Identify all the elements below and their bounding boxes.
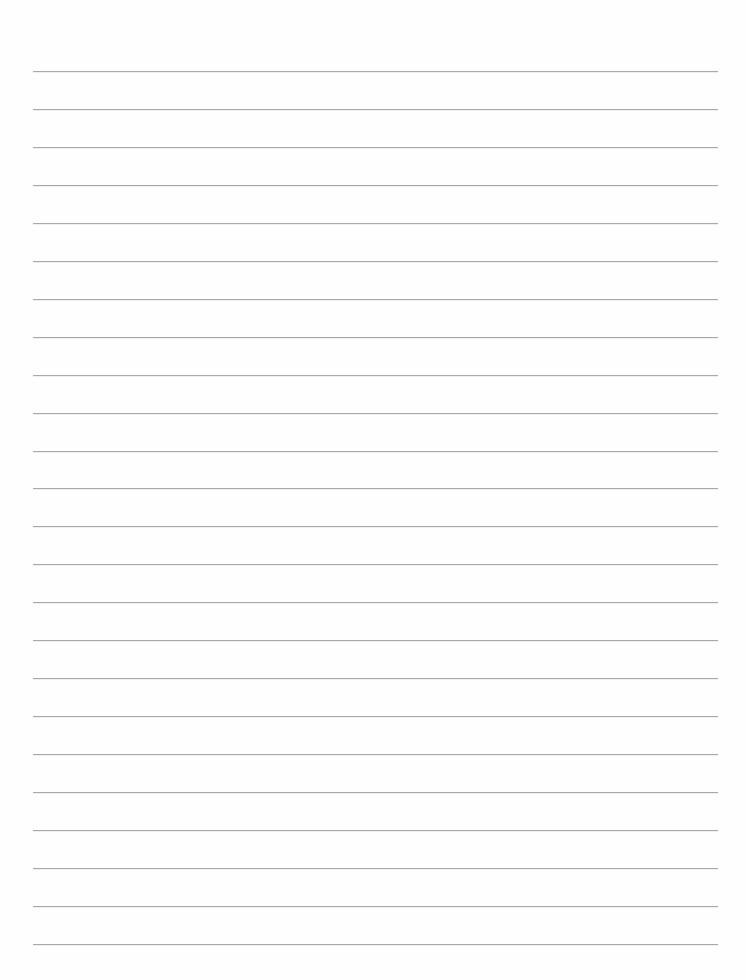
ruled-line — [33, 754, 718, 755]
ruled-line — [33, 375, 718, 376]
ruled-line — [33, 716, 718, 717]
lined-paper-page — [0, 0, 746, 980]
ruled-line — [33, 413, 718, 414]
ruled-line — [33, 451, 718, 452]
ruled-line — [33, 147, 718, 148]
ruled-line — [33, 830, 718, 831]
ruled-line — [33, 109, 718, 110]
ruled-line — [33, 223, 718, 224]
ruled-line — [33, 299, 718, 300]
ruled-line — [33, 185, 718, 186]
ruled-line — [33, 792, 718, 793]
ruled-line — [33, 640, 718, 641]
ruled-line — [33, 906, 718, 907]
ruled-line — [33, 261, 718, 262]
ruled-line — [33, 488, 718, 489]
ruled-line — [33, 71, 718, 72]
ruled-line — [33, 337, 718, 338]
ruled-line — [33, 678, 718, 679]
ruled-line — [33, 602, 718, 603]
ruled-line — [33, 868, 718, 869]
ruled-line — [33, 564, 718, 565]
ruled-line — [33, 526, 718, 527]
ruled-line — [33, 944, 718, 945]
